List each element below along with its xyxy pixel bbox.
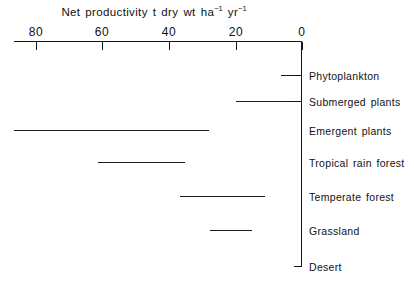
row-tick-desert — [294, 266, 302, 267]
range-bar-submerged-plants — [236, 101, 302, 102]
x-axis-tick-20 — [236, 42, 237, 50]
range-bar-grassland — [210, 230, 252, 231]
range-bar-emergent-plants — [14, 130, 209, 131]
chart-title-exponent-yr: −1 — [238, 4, 247, 13]
category-label-temperate-forest: Temperate forest — [309, 191, 394, 203]
chart-title-mid: yr — [223, 6, 238, 18]
x-axis-tick-label-20: 20 — [229, 25, 244, 39]
x-axis-line — [14, 41, 302, 42]
category-label-tropical-rain-forest: Tropical rain forest — [309, 157, 405, 169]
x-axis-tick-0 — [302, 42, 303, 50]
productivity-range-chart: Net productivity t dry wt ha−1 yr−1 8060… — [0, 0, 414, 281]
category-label-emergent-plants: Emergent plants — [309, 125, 391, 137]
chart-title: Net productivity t dry wt ha−1 yr−1 — [0, 4, 308, 18]
category-label-phytoplankton: Phytoplankton — [309, 70, 379, 82]
category-label-desert: Desert — [309, 261, 342, 273]
x-axis-tick-80 — [36, 42, 37, 50]
x-axis-tick-60 — [102, 42, 103, 50]
range-bar-temperate-forest — [180, 196, 265, 197]
x-axis-tick-label-40: 40 — [162, 25, 177, 39]
category-label-submerged-plants: Submerged plants — [309, 96, 401, 108]
x-axis-tick-label-60: 60 — [95, 25, 110, 39]
category-label-grassland: Grassland — [309, 225, 360, 237]
chart-title-exponent-ha: −1 — [214, 4, 223, 13]
chart-title-main: Net productivity t dry wt ha — [61, 6, 214, 18]
x-axis-tick-label-0: 0 — [298, 25, 305, 39]
x-axis-tick-label-80: 80 — [29, 25, 44, 39]
row-tick-submerged-plants — [294, 101, 302, 102]
range-bar-tropical-rain-forest — [98, 162, 185, 163]
row-tick-phytoplankton — [294, 75, 302, 76]
x-axis-tick-40 — [169, 42, 170, 50]
